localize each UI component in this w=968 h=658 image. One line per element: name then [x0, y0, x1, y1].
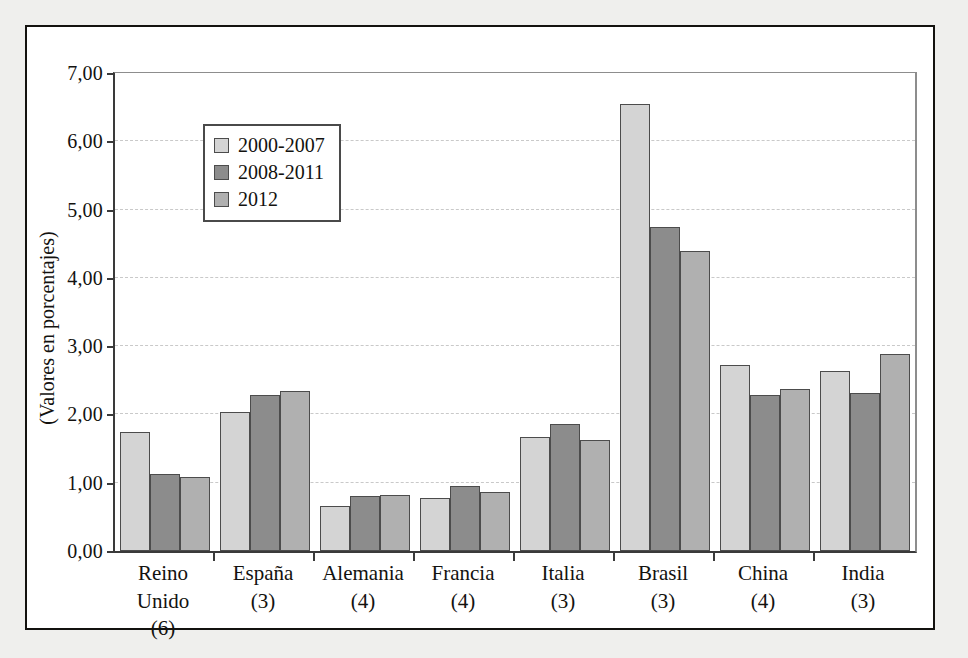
x-axis-category-label: India(3): [813, 560, 913, 643]
bar: [480, 492, 510, 551]
y-axis-tick-label: 1,00: [67, 471, 103, 494]
category-count: (3): [613, 588, 713, 616]
x-axis-category-label: España(3): [213, 560, 313, 643]
bar-group: [615, 73, 715, 551]
bar: [350, 496, 380, 551]
chart-figure: (Valores en porcentajes) 0,001,002,003,0…: [25, 25, 935, 630]
y-axis-tick-mark: [107, 278, 115, 280]
chart-legend: 2000-20072008-20112012: [203, 124, 341, 222]
bar: [820, 371, 850, 551]
bar: [850, 393, 880, 551]
bar-group: [515, 73, 615, 551]
bar: [650, 227, 680, 551]
category-count: (4): [413, 588, 513, 616]
y-axis-tick-mark: [107, 483, 115, 485]
bar: [520, 437, 550, 551]
x-axis-category-label: Reino Unido(6): [113, 560, 213, 643]
bar: [250, 395, 280, 551]
category-count: (3): [213, 588, 313, 616]
y-axis-tick-mark: [107, 551, 115, 553]
x-axis-category-label: Brasil(3): [613, 560, 713, 643]
y-axis-tick-label: 5,00: [67, 198, 103, 221]
category-count: (3): [813, 588, 913, 616]
category-name: India: [841, 561, 884, 585]
bar: [150, 474, 180, 551]
category-count: (4): [313, 588, 413, 616]
category-name: Italia: [541, 561, 584, 585]
bar: [620, 104, 650, 551]
legend-swatch: [214, 192, 229, 207]
y-axis-title: (Valores en porcentajes): [36, 231, 59, 424]
bar: [450, 486, 480, 551]
bar: [780, 389, 810, 551]
legend-swatch: [214, 165, 229, 180]
legend-label: 2008-2011: [238, 161, 324, 184]
bar-group: [715, 73, 815, 551]
bar: [220, 412, 250, 551]
y-axis-tick-mark: [107, 73, 115, 75]
x-axis-category-label: Francia(4): [413, 560, 513, 643]
y-axis-tick-mark: [107, 141, 115, 143]
bar-group: [415, 73, 515, 551]
y-axis-tick-label: 2,00: [67, 403, 103, 426]
category-count: (4): [713, 588, 813, 616]
category-name: Alemania: [322, 561, 404, 585]
legend-label: 2000-2007: [238, 134, 325, 157]
bar-group: [815, 73, 915, 551]
legend-item: 2000-2007: [214, 132, 325, 159]
bar: [580, 440, 610, 551]
bar: [720, 365, 750, 551]
category-count: (3): [513, 588, 613, 616]
y-axis-tick-label: 3,00: [67, 335, 103, 358]
y-axis-tick-mark: [107, 346, 115, 348]
legend-item: 2012: [214, 186, 325, 213]
bar: [750, 395, 780, 551]
bar: [280, 391, 310, 551]
bar: [320, 506, 350, 551]
bar: [680, 251, 710, 551]
category-name: China: [738, 561, 788, 585]
category-name: Brasil: [638, 561, 688, 585]
bar: [120, 432, 150, 552]
category-name: España: [233, 561, 294, 585]
bar: [420, 498, 450, 551]
legend-item: 2008-2011: [214, 159, 325, 186]
bar-group: [115, 73, 215, 551]
y-axis-tick-mark: [107, 414, 115, 416]
category-name: Francia: [432, 561, 495, 585]
category-axis-labels: Reino Unido(6)España(3)Alemania(4)Franci…: [113, 560, 913, 643]
legend-swatch: [214, 138, 229, 153]
bar: [180, 477, 210, 551]
x-axis-category-label: Alemania(4): [313, 560, 413, 643]
x-axis-category-label: China(4): [713, 560, 813, 643]
y-axis-tick-label: 6,00: [67, 130, 103, 153]
bar: [380, 495, 410, 551]
y-axis-tick-label: 4,00: [67, 266, 103, 289]
category-count: (6): [113, 615, 213, 643]
legend-label: 2012: [238, 188, 278, 211]
y-axis-tick-label: 0,00: [67, 540, 103, 563]
y-axis-tick-mark: [107, 210, 115, 212]
bar: [550, 424, 580, 551]
category-name: Reino Unido: [137, 561, 190, 613]
x-axis-category-label: Italia(3): [513, 560, 613, 643]
bar: [880, 354, 910, 551]
y-axis-tick-label: 7,00: [67, 62, 103, 85]
